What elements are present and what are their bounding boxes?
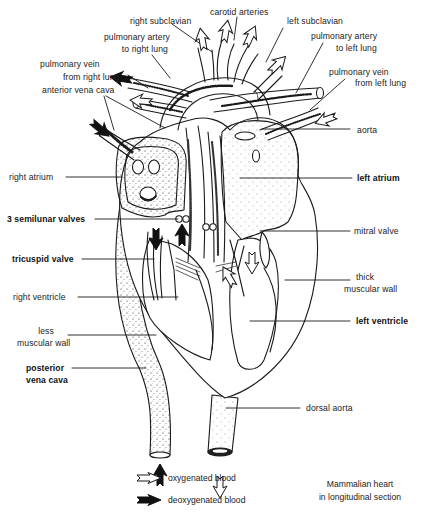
label-right-ventricle: right ventricle [13,292,66,302]
diagram-caption: Mammalian heart in longitudinal section [302,478,418,504]
label-carotid-arteries: carotid arteries [210,7,268,17]
diagram-title: Mammalian heart [302,478,418,491]
label-posterior-vena-cava-1: posterior [26,363,64,373]
label-posterior-vena-cava-2: vena cava [26,375,68,385]
label-less-muscular-wall-1: less [16,326,76,336]
legend-oxygenated-label: oxygenated blood [168,473,236,483]
open-arrow-icon [136,472,162,484]
label-pulmonary-vein-left-2: from left lung [355,78,406,88]
filled-arrow-icon [136,494,162,506]
label-pulmonary-artery-left-1: pulmonary artery [311,31,377,41]
label-pulmonary-artery-right-2: to right lung [96,44,168,54]
label-right-atrium: right atrium [9,172,53,182]
label-mitral-valve: mitral valve [354,226,399,236]
left-atrium-wall [221,121,298,240]
label-less-muscular-wall-2: muscular wall [17,338,70,348]
label-pulmonary-vein-left-1: pulmonary vein [329,67,389,77]
label-pulmonary-artery-left-2: to left lung [336,43,377,53]
label-pulmonary-artery-right-1: pulmonary artery [96,32,170,42]
legend-deoxygenated: deoxygenated blood [136,494,245,506]
label-tricuspid-valve: tricuspid valve [12,254,74,264]
label-dorsal-aorta: dorsal aorta [306,403,353,413]
label-left-subclavian: left subclavian [287,16,343,26]
label-anterior-vena-cava: anterior vena cava [42,85,115,95]
label-left-atrium: left atrium [357,173,400,183]
label-pulmonary-vein-right-1: pulmonary vein [40,59,100,69]
legend-deoxygenated-label: deoxygenated blood [168,495,245,505]
label-right-subclavian: right subclavian [130,16,191,26]
label-aorta: aorta [357,125,377,135]
label-thick-muscular-wall-1: thick [356,272,374,282]
legend-oxygenated: oxygenated blood [136,472,236,484]
label-pulmonary-vein-right-2: from right lung [63,72,119,82]
label-left-ventricle: left ventricle [356,316,408,326]
label-thick-muscular-wall-2: muscular wall [344,284,397,294]
label-semilunar-valves: 3 semilunar valves [7,214,85,224]
dorsal-aorta [208,395,238,456]
diagram-subtitle: in longitudinal section [302,491,418,504]
